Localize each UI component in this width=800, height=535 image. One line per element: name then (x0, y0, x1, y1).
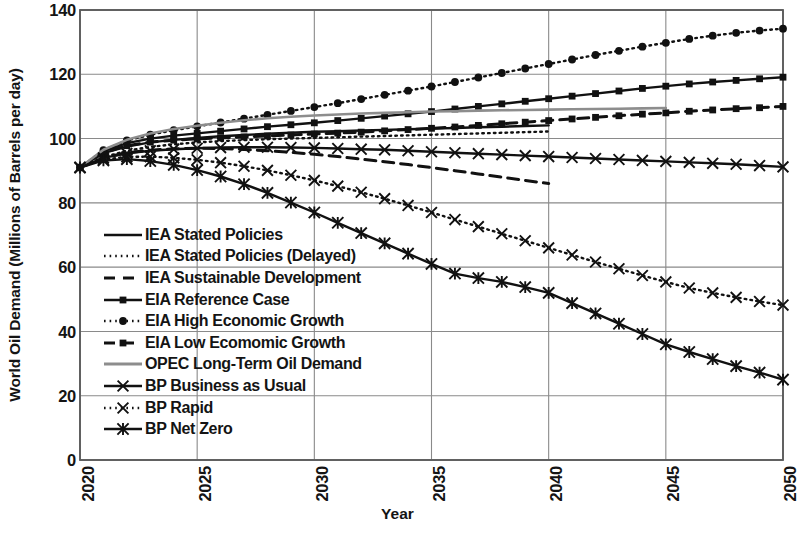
legend-item: IEA Stated Policies (Delayed) (103, 246, 453, 268)
legend-item: EIA Reference Case (103, 289, 453, 311)
legend-item-label: IEA Stated Policies (145, 226, 283, 244)
legend-swatch-line-dotted-x-marker-icon (103, 398, 145, 418)
legend-item: EIA Low Ecomomic Growth (103, 332, 453, 354)
chart-legend: IEA Stated PoliciesIEA Stated Policies (… (103, 224, 453, 440)
x-tick-2035: 2035 (430, 466, 449, 502)
x-tick-2025: 2025 (196, 466, 215, 502)
legend-swatch-line-solid-x-marker-icon (103, 376, 145, 396)
legend-item: OPEC Long-Term Oil Demand (103, 354, 453, 376)
legend-swatch-line-dashed-icon (103, 268, 145, 288)
legend-swatch-line-dashed-square-marker-icon (103, 333, 145, 353)
legend-swatch-line-solid-gray-icon (103, 354, 145, 374)
x-tick-2020: 2020 (79, 466, 98, 502)
legend-item-label: EIA Low Ecomomic Growth (145, 334, 345, 352)
legend-item-label: BP Net Zero (145, 420, 232, 438)
legend-item: IEA Stated Policies (103, 224, 453, 246)
legend-item-label: BP Business as Usual (145, 377, 306, 395)
x-tick-2030: 2030 (313, 466, 332, 502)
legend-swatch-line-solid-star-marker-icon (103, 419, 145, 439)
legend-item: EIA High Economic Growth (103, 310, 453, 332)
legend-item: BP Rapid (103, 397, 453, 419)
x-tick-2045: 2045 (664, 466, 683, 502)
legend-item-label: IEA Stated Policies (Delayed) (145, 247, 356, 265)
x-tick-2050: 2050 (781, 466, 800, 502)
legend-item-label: IEA Sustainable Development (145, 269, 361, 287)
x-tick-2040: 2040 (547, 466, 566, 502)
legend-item: BP Business as Usual (103, 375, 453, 397)
legend-swatch-line-solid-square-marker-icon (103, 290, 145, 310)
legend-item-label: OPEC Long-Term Oil Demand (145, 355, 362, 373)
legend-swatch-line-dotted-icon (103, 246, 145, 266)
legend-item-label: EIA High Economic Growth (145, 312, 344, 330)
legend-item: BP Net Zero (103, 418, 453, 440)
x-axis-title: Year (0, 505, 795, 523)
legend-item: IEA Sustainable Development (103, 267, 453, 289)
legend-swatch-line-solid-icon (103, 225, 145, 245)
legend-item-label: EIA Reference Case (145, 291, 289, 309)
legend-item-label: BP Rapid (145, 399, 213, 417)
legend-swatch-line-dotted-circle-marker-icon (103, 311, 145, 331)
